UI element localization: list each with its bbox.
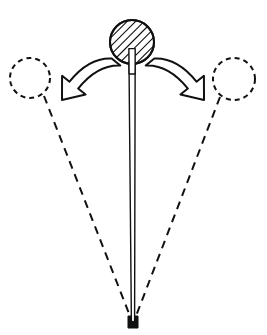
pendulum-rod-group <box>129 42 135 322</box>
swing-path-right <box>136 97 220 316</box>
ghost-bob-right <box>213 58 255 100</box>
pendulum-diagram: Pendulum rod pivoting about a fixed base… <box>0 0 267 335</box>
pendulum-rod <box>129 42 135 322</box>
motion-arrow-right <box>146 59 204 100</box>
rod-upper-segment <box>129 49 135 74</box>
diagram-canvas <box>0 0 267 335</box>
motion-arrow-left <box>62 59 120 100</box>
swing-path-left <box>44 96 130 316</box>
ghost-bob-left <box>10 58 50 98</box>
rod-over-bob-group <box>129 49 135 74</box>
